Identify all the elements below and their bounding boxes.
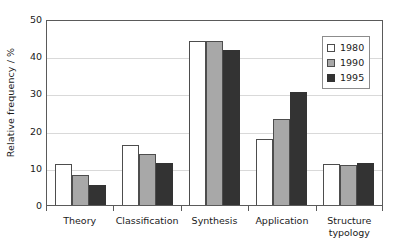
x-axis-category-label: Theory — [46, 213, 113, 247]
bar-group — [181, 21, 248, 205]
x-axis-tick — [113, 206, 114, 211]
bar — [323, 164, 340, 205]
x-axis-ticks — [46, 206, 383, 211]
x-axis-category-label-line: Structure — [316, 215, 383, 227]
legend-swatch-icon — [327, 74, 335, 82]
legend-item: 1990 — [327, 55, 364, 70]
x-axis-tick — [248, 206, 249, 211]
x-axis-category-label-line: Application — [248, 215, 315, 227]
x-axis-category-label: Classification — [113, 213, 180, 247]
bar — [139, 154, 156, 205]
bar-group — [248, 21, 315, 205]
bar — [89, 185, 106, 205]
x-axis-category-label-line: Synthesis — [181, 215, 248, 227]
bar — [357, 163, 374, 205]
y-axis-tick-label: 40 — [30, 52, 42, 62]
bar — [156, 163, 173, 205]
bar — [55, 164, 72, 205]
y-axis-tick-label: 20 — [30, 127, 42, 137]
bar — [290, 92, 307, 205]
bar — [122, 145, 139, 205]
legend-item-label: 1990 — [340, 58, 364, 68]
x-axis-category-label: Structuretypology — [316, 213, 383, 247]
x-axis-category-label: Synthesis — [181, 213, 248, 247]
bar — [273, 119, 290, 205]
bar — [189, 41, 206, 205]
legend-item: 1995 — [327, 70, 364, 85]
legend-item-label: 1995 — [340, 73, 364, 83]
legend-item: 1980 — [327, 40, 364, 55]
legend-item-label: 1980 — [340, 43, 364, 53]
y-axis-tick-label: 50 — [30, 15, 42, 25]
x-axis-tick — [316, 206, 317, 211]
x-axis-category-label-line: Theory — [46, 215, 113, 227]
bar — [340, 165, 357, 205]
y-axis-tick-label: 10 — [30, 164, 42, 174]
x-axis-tick — [181, 206, 182, 211]
x-axis-category-label-line: Classification — [113, 215, 180, 227]
x-axis-category-label: Application — [248, 213, 315, 247]
legend-swatch-icon — [327, 59, 335, 67]
bar-chart: Relative frequency / % 01020304050 Theor… — [0, 0, 396, 249]
y-axis-tick-labels: 01020304050 — [16, 14, 42, 206]
legend: 198019901995 — [322, 36, 370, 89]
bar-group — [114, 21, 181, 205]
bar-group — [47, 21, 114, 205]
x-axis-category-label-line: typology — [316, 227, 383, 239]
bar — [256, 139, 273, 205]
bar — [206, 41, 223, 205]
legend-swatch-icon — [327, 44, 335, 52]
x-axis-tick — [382, 206, 383, 211]
bar — [223, 50, 240, 205]
y-axis-tick-label: 0 — [36, 201, 42, 211]
y-axis-tick-label: 30 — [30, 90, 42, 100]
bar — [72, 175, 89, 205]
x-axis-category-labels: TheoryClassificationSynthesisApplication… — [46, 213, 383, 247]
x-axis-tick — [46, 206, 47, 211]
